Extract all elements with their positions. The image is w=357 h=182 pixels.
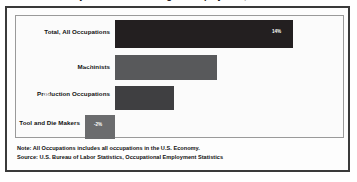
bar-row: Production Occupations 4%	[16, 83, 343, 113]
source-line: Source: U.S. Bureau of Labor Statistics,…	[17, 153, 337, 162]
bar-value-label: 8%	[84, 63, 91, 69]
chart-title-cropped: Projected Percent Change in Employment, …	[0, 0, 357, 4]
bar-machinists	[115, 55, 217, 80]
category-label: Machinists	[18, 63, 110, 71]
bar-row: Machinists 8%	[16, 52, 343, 83]
chart-screenshot: Projected Percent Change in Employment, …	[0, 0, 357, 182]
chart-title-text: Projected Percent Change in Employment, …	[0, 0, 357, 2]
bar-total-all-occupations	[115, 20, 293, 48]
bar-production-occupations	[115, 86, 174, 110]
category-label: Production Occupations	[18, 90, 110, 98]
bar-row: Total, All Occupations 14%	[16, 16, 343, 52]
bar-value-label: 14%	[272, 29, 281, 35]
plot-area: Total, All Occupations 14% Machinists 8%…	[15, 15, 344, 138]
figure-panel: Total, All Occupations 14% Machinists 8%…	[5, 6, 350, 172]
footnotes: Note: All Occupations includes all occup…	[17, 144, 337, 161]
category-label: Total, All Occupations	[18, 28, 110, 36]
bar-value-label: -2%	[94, 122, 102, 128]
category-label: Tool and Die Makers	[18, 119, 80, 127]
bar-value-label: 4%	[44, 93, 51, 99]
note-line: Note: All Occupations includes all occup…	[17, 144, 337, 153]
bar-row: Tool and Die Makers -2%	[16, 113, 343, 139]
